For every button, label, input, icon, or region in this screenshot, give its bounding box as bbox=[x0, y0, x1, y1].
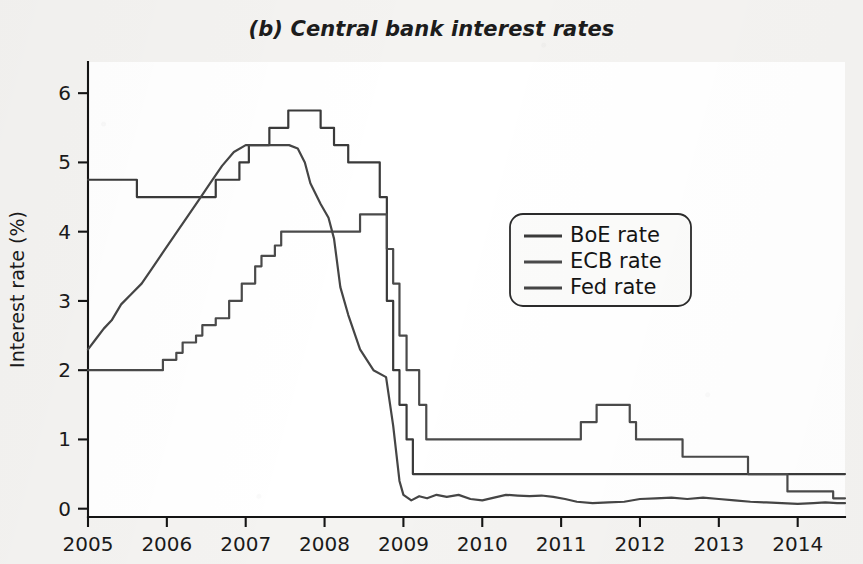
y-tick-label: 5 bbox=[58, 150, 71, 174]
y-axis-ticks: 0123456 bbox=[58, 81, 88, 521]
legend-label-boe-rate[interactable]: BoE rate bbox=[570, 223, 660, 247]
x-tick-label: 2005 bbox=[63, 532, 114, 556]
x-tick-label: 2006 bbox=[141, 532, 192, 556]
y-tick-label: 1 bbox=[58, 427, 71, 451]
y-tick-label: 0 bbox=[58, 497, 71, 521]
legend-label-ecb-rate[interactable]: ECB rate bbox=[570, 249, 662, 273]
y-tick-label: 2 bbox=[58, 358, 71, 382]
x-tick-label: 2010 bbox=[457, 532, 508, 556]
y-axis-title: Interest rate (%) bbox=[6, 211, 28, 368]
x-tick-label: 2009 bbox=[378, 532, 429, 556]
x-tick-label: 2007 bbox=[220, 532, 271, 556]
chart-plot-area: 0123456 20052006200720082009201020112012… bbox=[0, 0, 863, 564]
chart-figure: (b) Central bank interest rates 0123456 … bbox=[0, 0, 863, 564]
x-axis-ticks: 2005200620072008200920102011201220132014 bbox=[63, 517, 824, 556]
x-tick-label: 2014 bbox=[772, 532, 823, 556]
x-tick-label: 2008 bbox=[299, 532, 350, 556]
y-tick-label: 6 bbox=[58, 81, 71, 105]
y-tick-label: 3 bbox=[58, 289, 71, 313]
legend-label-fed-rate[interactable]: Fed rate bbox=[570, 275, 657, 299]
y-tick-label: 4 bbox=[58, 220, 71, 244]
x-tick-label: 2011 bbox=[536, 532, 587, 556]
x-tick-label: 2013 bbox=[693, 532, 744, 556]
x-tick-label: 2012 bbox=[615, 532, 666, 556]
plot-background bbox=[88, 62, 845, 517]
chart-legend[interactable]: BoE rateECB rateFed rate bbox=[510, 214, 691, 306]
